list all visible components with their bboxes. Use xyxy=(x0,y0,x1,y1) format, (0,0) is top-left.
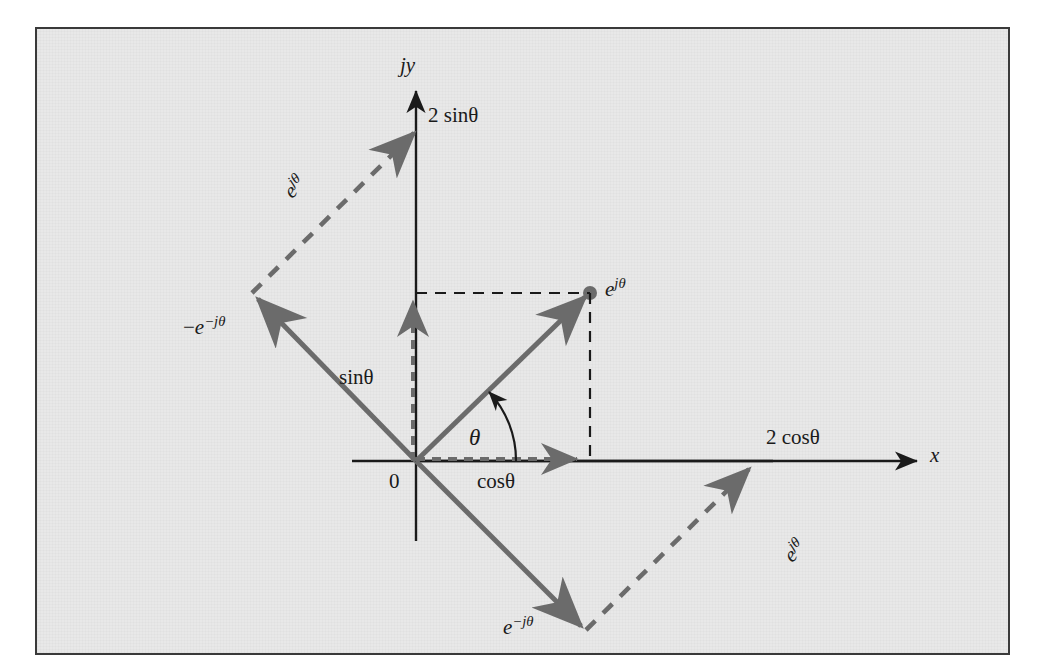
two-sin-theta-label: 2 sinθ xyxy=(428,105,478,126)
vector-neg-e-neg-jtheta xyxy=(258,299,416,461)
theta-angle-label: θ xyxy=(469,426,480,449)
sin-theta-label: sinθ xyxy=(339,367,374,388)
figure-frame: jy x 0 2 sinθ 2 cosθ sinθ cosθ θ ejθ ejθ… xyxy=(35,27,1010,655)
screenshot-canvas: jy x 0 2 sinθ 2 cosθ sinθ cosθ θ ejθ ejθ… xyxy=(0,0,1038,672)
vector-e-jtheta-translated-upper xyxy=(252,133,414,293)
x-axis-label: x xyxy=(930,445,939,466)
two-cos-theta-label: 2 cosθ xyxy=(766,427,820,448)
neg-e-neg-jtheta-label: −e−jθ xyxy=(183,317,225,338)
jy-axis-label: jy xyxy=(400,55,415,76)
e-pos-jtheta-point-label: ejθ xyxy=(605,279,626,300)
vector-e-pos-jtheta xyxy=(416,297,585,461)
origin-label: 0 xyxy=(389,471,400,492)
e-neg-jtheta-label: e−jθ xyxy=(503,617,534,638)
cos-theta-label: cosθ xyxy=(477,471,515,492)
vector-e-jtheta-translated-lower xyxy=(586,469,749,630)
angle-arc-theta xyxy=(489,392,516,461)
phasor-diagram xyxy=(37,29,1008,653)
